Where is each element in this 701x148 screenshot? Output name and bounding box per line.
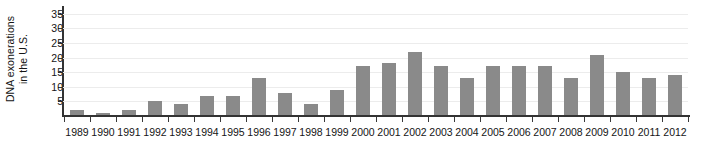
x-tick-mark-end [688, 117, 689, 122]
bar-2006 [512, 66, 526, 116]
y-axis-ticks: 5101520253035 [33, 0, 63, 120]
gridline-30 [63, 28, 688, 29]
x-tick-mark-2004 [454, 117, 455, 122]
x-tick-mark-1997 [272, 117, 273, 122]
x-tick-mark-2009 [584, 117, 585, 122]
y-axis-title: DNA exonerations in the U.S. [0, 0, 34, 118]
x-tick-mark-2005 [480, 117, 481, 122]
x-axis-labels: 1989199019911992199319941995199619971998… [0, 126, 701, 142]
x-tick-mark-2010 [610, 117, 611, 122]
bar-1992 [148, 101, 162, 116]
bar-2008 [564, 78, 578, 116]
y-tick-label-25: 25 [41, 38, 63, 49]
bar-2000 [356, 66, 370, 116]
bar-1999 [330, 90, 344, 116]
x-tick-mark-2000 [350, 117, 351, 122]
y-tick-label-35: 35 [41, 9, 63, 20]
x-tick-mark-1995 [220, 117, 221, 122]
x-tick-mark-2006 [506, 117, 507, 122]
bar-2001 [382, 63, 396, 116]
x-tick-mark-1994 [194, 117, 195, 122]
x-tick-mark-1996 [246, 117, 247, 122]
y-tick-label-10: 10 [41, 82, 63, 93]
bar-2011 [642, 78, 656, 116]
bar-1996 [252, 78, 266, 116]
y-axis-title-line1: DNA exonerations [4, 16, 16, 102]
bar-1995 [226, 96, 240, 116]
bar-1997 [278, 93, 292, 116]
y-tick-label-30: 30 [41, 23, 63, 34]
gridline-25 [63, 43, 688, 44]
x-axis-ticks [0, 117, 701, 124]
x-tick-mark-1993 [168, 117, 169, 122]
gridline-35 [63, 14, 688, 15]
bar-2005 [486, 66, 500, 116]
bar-1994 [200, 96, 214, 116]
x-tick-mark-2002 [402, 117, 403, 122]
y-tick-label-5: 5 [41, 96, 63, 107]
x-tick-mark-2008 [558, 117, 559, 122]
x-tick-mark-1992 [142, 117, 143, 122]
x-tick-mark-1999 [324, 117, 325, 122]
x-tick-mark-1990 [90, 117, 91, 122]
bar-2003 [434, 66, 448, 116]
x-tick-mark-2012 [662, 117, 663, 122]
y-tick-label-15: 15 [41, 67, 63, 78]
x-tick-mark-2011 [636, 117, 637, 122]
x-tick-mark-2003 [428, 117, 429, 122]
bar-2010 [616, 72, 630, 116]
x-tick-mark-1998 [298, 117, 299, 122]
y-axis-title-line2: in the U.S. [17, 16, 30, 102]
bar-2004 [460, 78, 474, 116]
plot-area [63, 8, 688, 116]
bar-2012 [668, 75, 682, 116]
x-tick-mark-1991 [116, 117, 117, 122]
x-tick-mark-2007 [532, 117, 533, 122]
bar-2009 [590, 55, 604, 116]
y-tick-label-20: 20 [41, 53, 63, 64]
x-tick-label-2012: 2012 [659, 126, 691, 138]
bar-2002 [408, 52, 422, 116]
bar-2007 [538, 66, 552, 116]
dna-exonerations-bar-chart: DNA exonerations in the U.S. 51015202530… [0, 0, 701, 148]
x-tick-mark-1989 [64, 117, 65, 122]
x-tick-mark-2001 [376, 117, 377, 122]
